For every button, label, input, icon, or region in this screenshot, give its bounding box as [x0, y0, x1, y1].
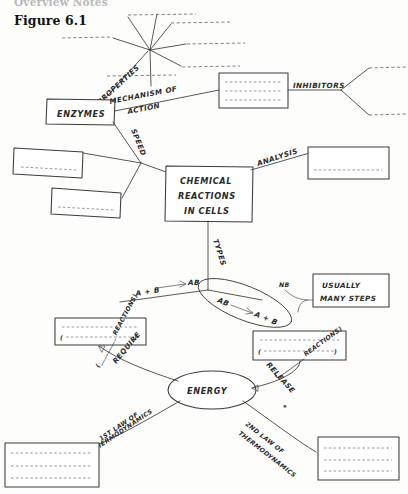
- node-usually-many-steps[interactable]: USUALLY MANY STEPS: [313, 274, 389, 307]
- synthesis-box-paren-open: (: [60, 334, 63, 341]
- node-enzymes[interactable]: ENZYMES: [46, 99, 115, 125]
- node-label-energy: ENERGY: [187, 386, 228, 396]
- answer-box-second-law[interactable]: [318, 437, 399, 480]
- edge-label-types: TYPES: [211, 238, 228, 267]
- breakdown-box-paren-close: ): [333, 348, 337, 355]
- release-asterisk: *: [283, 403, 287, 412]
- node-label-enzymes: ENZYMES: [57, 109, 105, 119]
- edge-label-inhibitors: INHIBITORS: [293, 81, 345, 90]
- answer-box-mechanism[interactable]: [219, 73, 288, 108]
- answer-box-speed-lower[interactable]: [51, 188, 121, 218]
- concept-map-diagram: PROPERTIES ENZYMES MECHANISM OF ACTION I…: [0, 0, 408, 494]
- center-label-line1: CHEMICAL: [180, 176, 232, 186]
- answer-box-speed-upper[interactable]: [13, 148, 83, 178]
- breakdown-box-paren-open: (: [258, 348, 261, 355]
- edge-analysis: ANALYSIS: [251, 146, 313, 170]
- edge-label-mechanism-line2: ACTION: [126, 101, 161, 116]
- usually-many-steps-line2: MANY STEPS: [320, 294, 376, 303]
- annotation-label-nb: NB: [279, 281, 290, 288]
- annotation-nb: NB: [279, 281, 313, 312]
- node-energy[interactable]: ENERGY: [168, 371, 256, 409]
- edge-label-first-law-line2: THERMODYNAMICS: [91, 407, 154, 453]
- edge-label-speed: SPEED: [129, 127, 148, 157]
- worksheet-page: Overview Notes Figure 6.1 PROPERTIES: [0, 0, 408, 494]
- edge-first-law: 1ST LAW OF THERMODYNAMICS: [91, 401, 180, 453]
- center-label-line2: REACTIONS: [178, 191, 236, 201]
- equation-breakdown: AB A + B: [192, 269, 297, 338]
- answer-box-analysis[interactable]: [308, 147, 389, 179]
- equation-breakdown-left: AB: [215, 295, 230, 308]
- node-chemical-reactions[interactable]: CHEMICAL REACTIONS IN CELLS: [165, 166, 253, 222]
- edge-mechanism-of-action: MECHANISM OF ACTION: [109, 84, 219, 116]
- equation-synthesis: A + B AB: [134, 278, 200, 298]
- answer-box-first-law[interactable]: [5, 443, 99, 487]
- edge-inhibitors: INHIBITORS: [288, 67, 406, 115]
- edge-second-law: 2ND LAW OF THERMODYNAMICS: [237, 401, 316, 479]
- edge-speed: SPEED: [83, 122, 166, 198]
- center-label-line3: IN CELLS: [184, 206, 229, 216]
- properties-hub: [62, 14, 245, 86]
- edge-label-analysis: ANALYSIS: [255, 146, 299, 168]
- usually-many-steps-line1: USUALLY: [322, 281, 361, 290]
